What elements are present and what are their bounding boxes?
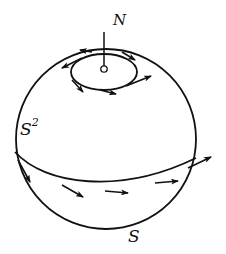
north-pole-label: N xyxy=(113,11,126,29)
sphere-label-exponent: 2 xyxy=(32,116,39,129)
equator-curve xyxy=(15,152,196,182)
equator-vector-arrows xyxy=(18,157,211,197)
sphere-label: S2 xyxy=(20,118,39,139)
sphere-label-base: S xyxy=(20,119,32,139)
sphere-outline xyxy=(16,49,196,229)
sphere-vector-field-diagram: N S2 S xyxy=(0,0,226,254)
north-pole-marker xyxy=(101,66,107,72)
south-pole-label: S xyxy=(128,226,140,246)
